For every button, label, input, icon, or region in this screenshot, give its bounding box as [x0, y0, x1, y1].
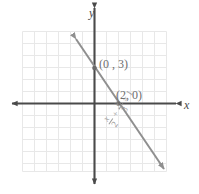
point-y-intercept: [92, 66, 97, 71]
x-axis-label: x: [184, 99, 189, 111]
coordinate-plane: [0, 0, 199, 194]
axes: [12, 8, 176, 184]
y-intercept-label: (0 , 3): [99, 58, 128, 70]
graph-figure: (0 , 3) (2, 0) x y x 2 + y 3 = 1: [0, 0, 199, 194]
y-axis-label: y: [89, 7, 94, 19]
